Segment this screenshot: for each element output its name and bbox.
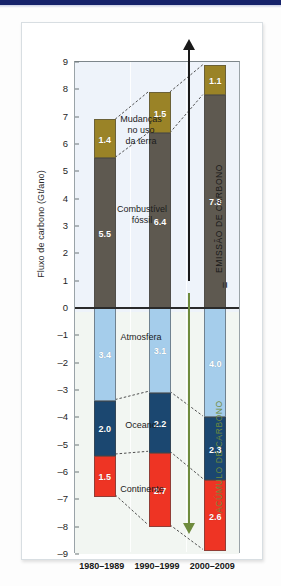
bar-value-label: 3.4 [95, 350, 115, 360]
equals-marker: = [219, 282, 231, 288]
y-tick-label-neg3: –3 [42, 384, 68, 395]
y-tick-mark [75, 472, 79, 473]
y-tick-label-neg2: –2 [42, 356, 68, 367]
x-tick-label-1990–1999: 1990–1999 [129, 561, 184, 571]
annotation-land: Continente [101, 484, 183, 495]
y-tick-mark [75, 526, 79, 527]
bar-segment: 3.4 [94, 308, 116, 401]
x-tick-label-2000–2009: 2000–2009 [185, 561, 240, 571]
annotation-land-use-line3: da terra [105, 136, 177, 147]
x-tick-label-1980–1989: 1980–1989 [74, 561, 129, 571]
annotation-ocean: Oceano [105, 420, 177, 431]
y-tick-label-neg5: –5 [42, 438, 68, 449]
accumulation-arrow-head-icon [183, 523, 195, 534]
figure-card: Fluxo de carbono (Gt/ano) 9876543210–1–2… [21, 22, 263, 560]
annotation-fossil-line1: Combustível [99, 204, 185, 215]
figure-page: Fluxo de carbono (Gt/ano) 9876543210–1–2… [0, 0, 281, 586]
y-tick-label-neg8: –8 [42, 520, 68, 531]
bar-value-label: 2.6 [205, 512, 225, 522]
y-tick-mark [75, 226, 79, 227]
y-tick-mark [75, 554, 79, 555]
y-tick-mark [75, 144, 79, 145]
y-tick-mark [75, 417, 79, 418]
y-tick-mark [75, 116, 79, 117]
annotation-fossil-line2: fóssil [99, 215, 185, 226]
bar-value-label: 3.1 [150, 346, 170, 356]
annotation-land-use-line1: Mudanças [105, 114, 177, 125]
y-tick-label-2: 2 [42, 247, 68, 258]
y-tick-mark [75, 444, 79, 445]
annotation-land-use: Mudanças no uso da terra [105, 114, 177, 147]
y-tick-label-3: 3 [42, 220, 68, 231]
bar-segment: 5.5 [94, 158, 116, 308]
y-tick-mark [75, 62, 79, 63]
emission-direction-label: EMISSÃO DE CARBONO [214, 164, 224, 273]
bar-value-label: 1.5 [95, 472, 115, 482]
y-tick-label-9: 9 [42, 56, 68, 67]
y-tick-mark [75, 362, 79, 363]
accumulation-arrow-shaft [188, 293, 190, 523]
annotation-land-use-line2: no uso [105, 125, 177, 136]
bar-value-label: 5.5 [95, 229, 115, 239]
annotation-fossil-fuel: Combustível fóssil [99, 204, 185, 226]
y-tick-mark [75, 89, 79, 90]
y-tick-label-8: 8 [42, 83, 68, 94]
y-tick-mark [75, 171, 79, 172]
zero-line [75, 307, 239, 309]
y-tick-label-1: 1 [42, 274, 68, 285]
y-tick-label-6: 6 [42, 138, 68, 149]
annotation-atmosphere: Atmosfera [105, 332, 177, 343]
accumulation-direction-label: ACÚMULO DE CARBONO [214, 400, 224, 513]
y-tick-mark [75, 253, 79, 254]
emission-arrow-shaft [188, 49, 190, 281]
bar-value-label: 4.0 [205, 359, 225, 369]
y-tick-label-4: 4 [42, 192, 68, 203]
y-tick-mark [75, 198, 79, 199]
y-tick-mark [75, 335, 79, 336]
bar-segment: 1.1 [204, 65, 226, 95]
y-tick-label-neg1: –1 [42, 329, 68, 340]
bar-segment: 3.1 [149, 308, 171, 393]
emission-arrow-head-icon [183, 39, 195, 50]
y-tick-mark [75, 499, 79, 500]
y-tick-label-5: 5 [42, 165, 68, 176]
y-tick-label-neg6: –6 [42, 466, 68, 477]
y-tick-label-0: 0 [42, 302, 68, 313]
y-tick-label-neg7: –7 [42, 493, 68, 504]
y-tick-mark [75, 390, 79, 391]
y-tick-label-7: 7 [42, 110, 68, 121]
y-tick-label-neg4: –4 [42, 411, 68, 422]
y-tick-label-neg9: –9 [42, 548, 68, 559]
y-tick-mark [75, 280, 79, 281]
page-top-strip-shadow [0, 5, 281, 8]
bar-value-label: 1.1 [205, 76, 225, 86]
